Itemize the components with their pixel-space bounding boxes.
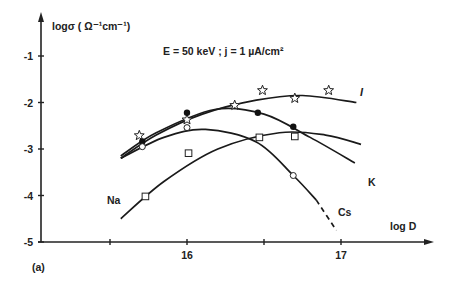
open-circle-marker-icon [290, 173, 296, 179]
open-square-marker-icon [292, 133, 299, 140]
filled-circle-marker-icon [184, 110, 190, 116]
x-tick-label: 16 [181, 249, 193, 261]
open-square-marker-icon [185, 150, 192, 157]
open-circle-marker-icon [184, 125, 190, 131]
series-label-cs: Cs [338, 206, 352, 218]
open-square-marker-icon [142, 193, 149, 200]
series-label-na: Na [107, 194, 121, 206]
y-axis-arrow-icon [38, 12, 44, 22]
star-marker-icon [258, 85, 268, 94]
x-tick-label: 17 [335, 249, 347, 261]
chart-title: E = 50 keV ; j = 1 µA/cm² [163, 45, 284, 57]
curve-cs [121, 129, 317, 200]
y-tick-label: -3 [24, 143, 33, 155]
filled-circle-marker-icon [255, 110, 261, 116]
star-marker-icon [324, 85, 334, 94]
series-label-k: K [368, 176, 376, 188]
y-tick-label: -5 [24, 236, 33, 248]
x-axis-arrow-icon [424, 239, 434, 245]
y-tick-label: -2 [24, 97, 33, 109]
filled-circle-marker-icon [290, 123, 296, 129]
series-label-i: I [360, 86, 364, 98]
open-square-marker-icon [256, 134, 263, 141]
series-curves [121, 95, 361, 230]
y-tick-label: -1 [24, 50, 33, 62]
y-tick-label: -4 [24, 190, 33, 202]
curve-cs-dashed [316, 200, 336, 230]
panel-label: (a) [32, 261, 45, 273]
open-circle-marker-icon [139, 144, 145, 150]
star-marker-icon [134, 130, 144, 139]
star-marker-icon [290, 93, 300, 102]
chart-canvas: -1-2-3-4-5 1617 logσ ( Ω⁻¹cm⁻¹) E = 50 k… [0, 0, 452, 284]
x-axis-label: log D [390, 220, 417, 232]
y-axis-label: logσ ( Ω⁻¹cm⁻¹) [52, 20, 130, 32]
